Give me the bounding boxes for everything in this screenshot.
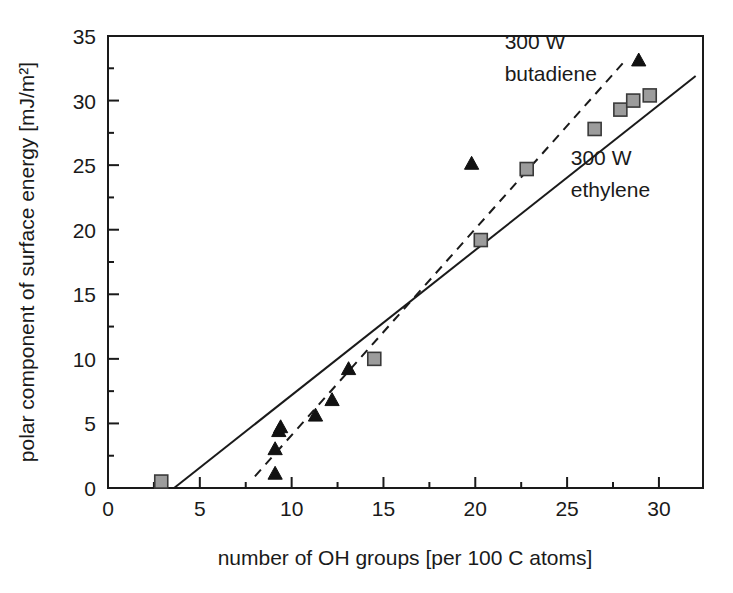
data-point-square xyxy=(520,163,533,176)
y-tick-label: 20 xyxy=(73,219,96,242)
butadiene-annotation-line2: butadiene xyxy=(505,62,597,85)
data-point-square xyxy=(588,122,601,135)
x-tick-label: 30 xyxy=(647,497,670,520)
y-axis-title: polar component of surface energy [mJ/m²… xyxy=(15,62,38,462)
x-tick-label: 0 xyxy=(102,497,114,520)
butadiene-annotation-line1: 300 W xyxy=(505,30,566,53)
data-point-square xyxy=(643,89,656,102)
data-point-square xyxy=(627,94,640,107)
x-axis-title: number of OH groups [per 100 C atoms] xyxy=(218,546,593,569)
ethylene-annotation-line2: ethylene xyxy=(571,178,650,201)
scatter-plot: 051015202530 05101520253035 300 W butadi… xyxy=(0,0,733,593)
x-tick-label: 10 xyxy=(280,497,303,520)
y-tick-label: 10 xyxy=(73,348,96,371)
data-point-square xyxy=(614,103,627,116)
y-tick-label: 0 xyxy=(84,477,96,500)
chart-container: 051015202530 05101520253035 300 W butadi… xyxy=(0,0,733,593)
y-tick-label: 25 xyxy=(73,154,96,177)
data-point-square xyxy=(155,475,168,488)
y-tick-label: 30 xyxy=(73,90,96,113)
y-tick-label: 35 xyxy=(73,25,96,48)
ethylene-annotation-line1: 300 W xyxy=(571,146,632,169)
x-tick-label: 20 xyxy=(464,497,487,520)
data-point-square xyxy=(368,352,381,365)
y-tick-label: 15 xyxy=(73,283,96,306)
x-tick-label: 5 xyxy=(194,497,206,520)
x-tick-label: 25 xyxy=(555,497,578,520)
data-point-square xyxy=(474,234,487,247)
x-tick-label: 15 xyxy=(372,497,395,520)
y-tick-label: 5 xyxy=(84,412,96,435)
